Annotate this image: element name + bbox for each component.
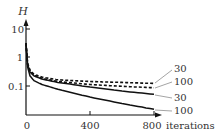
x-axis-arrow-icon xyxy=(155,113,162,118)
y-tick-label-0.1: 0.1 xyxy=(8,81,24,92)
x-tick-label-800: 800 xyxy=(142,120,161,131)
y-axis-arrow-icon xyxy=(24,19,29,26)
x-axis-label: iterations xyxy=(166,120,215,131)
curve-dashed-100 xyxy=(26,43,154,87)
leader-line-dashed-100 xyxy=(155,82,172,88)
series-label-dashed-100: 100 xyxy=(174,76,193,87)
curve-dashed-30 xyxy=(26,43,154,83)
y-tick-label-10: 10 xyxy=(11,24,24,35)
series-group xyxy=(26,43,154,109)
leader-line-solid-30 xyxy=(155,95,172,98)
series-label-dashed-30: 30 xyxy=(174,63,187,74)
chart: H 10 1 0.1 0 400 800 iterations 30 100 3… xyxy=(0,0,217,138)
series-label-solid-30: 30 xyxy=(174,92,187,103)
leader-line-dashed-30 xyxy=(155,70,172,83)
x-tick-label-400: 400 xyxy=(80,120,99,131)
y-tick-label-1: 1 xyxy=(17,52,23,63)
curve-solid-100 xyxy=(26,43,154,109)
y-axis-label: H xyxy=(17,5,28,18)
series-label-solid-100: 100 xyxy=(174,105,193,116)
x-tick-label-0: 0 xyxy=(24,120,30,131)
leader-line-solid-100 xyxy=(155,110,172,111)
